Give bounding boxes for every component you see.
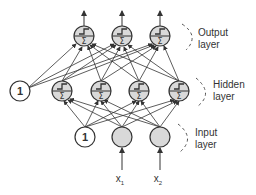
svg-text:1: 1 — [17, 85, 23, 97]
svg-text:layer: layer — [213, 91, 235, 102]
input-label-x1: x1 — [116, 173, 125, 186]
neural-network-diagram: Σ 1 1 x1 x2 — [0, 0, 256, 195]
input-to-hidden-connections — [64, 99, 179, 127]
output-neuron — [74, 26, 94, 46]
svg-text:1: 1 — [82, 131, 88, 143]
input-arrows — [122, 148, 160, 170]
input-layer-label: Input — [195, 127, 217, 138]
hidden-bias-node: 1 — [10, 81, 30, 101]
input-neuron — [112, 127, 132, 147]
hidden-neuron — [52, 81, 72, 101]
hidden-neuron — [169, 81, 189, 101]
hidden-neuron — [129, 81, 149, 101]
output-neuron — [150, 26, 170, 46]
output-neuron — [112, 26, 132, 46]
output-layer-label: Output — [198, 27, 228, 38]
hidden-neuron — [91, 81, 111, 101]
input-bias-node: 1 — [75, 127, 95, 147]
input-label-x2: x2 — [154, 173, 163, 186]
hidden-layer-label: Hidden — [213, 79, 245, 90]
input-neuron — [150, 127, 170, 147]
output-arrows — [84, 11, 160, 26]
svg-text:layer: layer — [195, 139, 217, 150]
svg-text:layer: layer — [198, 39, 220, 50]
